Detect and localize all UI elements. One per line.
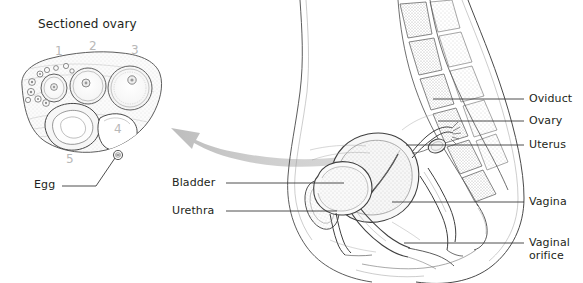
oviduct-label: Oviduct (529, 93, 572, 106)
urethra-label: Urethra (172, 205, 214, 218)
female-reproductive-anatomy-figure: Sectioned ovary 1 2 3 4 5 Egg Bladder Ur… (0, 0, 583, 283)
vaginal-orifice-label-line1: Vaginal (529, 237, 570, 250)
vagina-label: Vagina (529, 196, 567, 209)
inset-title: Sectioned ovary (38, 18, 137, 31)
egg-label: Egg (34, 179, 55, 192)
sectioned-ovary-drawing (18, 48, 168, 186)
ovary-stage-number-1: 1 (55, 44, 63, 58)
ovary-label: Ovary (529, 115, 562, 128)
vagina-organ (352, 208, 454, 269)
bladder-label: Bladder (172, 177, 215, 190)
anatomy-illustration (0, 0, 583, 283)
bladder-organ (314, 162, 372, 215)
ovary-stage-number-3: 3 (131, 43, 139, 57)
vertebral-column (398, 0, 508, 250)
uterus-label: Uterus (529, 139, 566, 152)
vaginal-orifice-label-line2: orifice (529, 250, 564, 263)
ovary-stage-number-2: 2 (89, 39, 97, 53)
ovary-stage-number-4: 4 (114, 122, 122, 136)
ovary-stage-number-5: 5 (66, 152, 74, 166)
sagittal-pelvis-drawing (288, 0, 524, 283)
